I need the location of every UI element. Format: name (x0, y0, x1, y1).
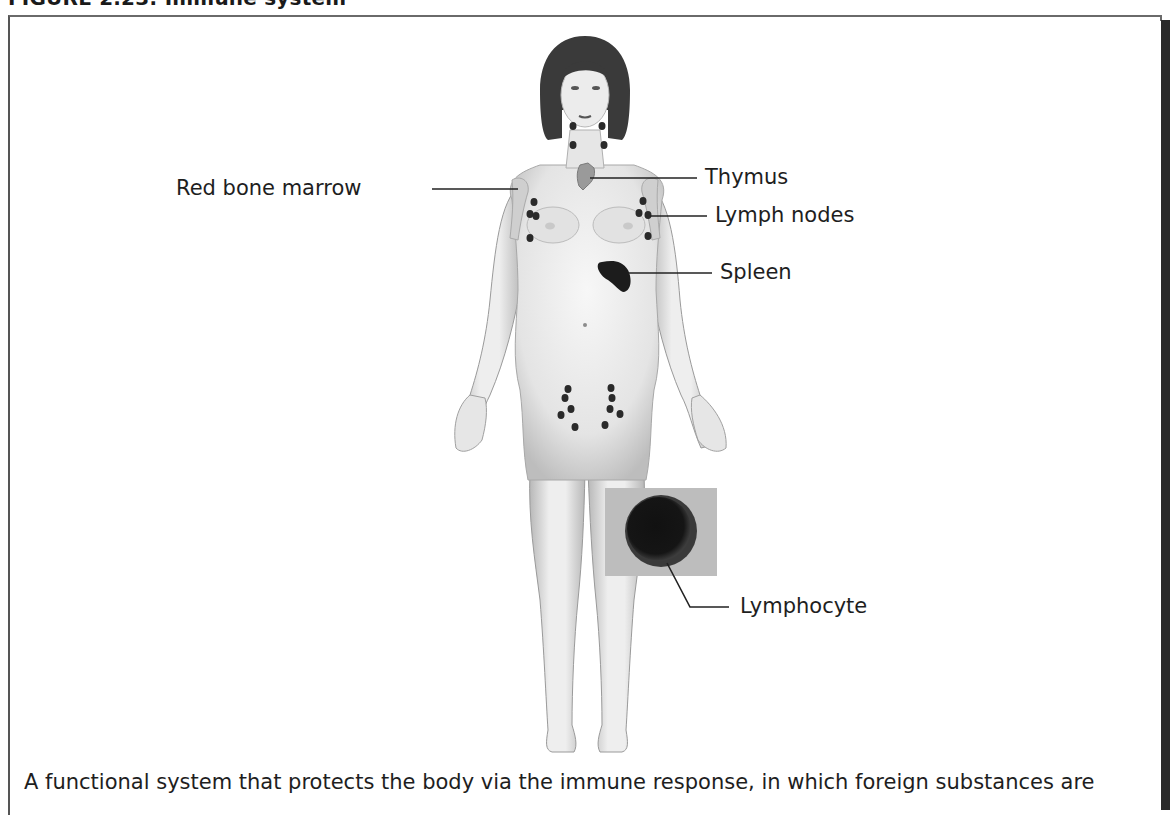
figure-caption: A functional system that protects the bo… (24, 770, 1095, 794)
neck (566, 130, 604, 168)
label-lymph-nodes: Lymph nodes (715, 205, 854, 226)
label-lymphocyte: Lymphocyte (740, 596, 867, 617)
label-thymus: Thymus (705, 167, 788, 188)
head (540, 36, 630, 140)
label-spleen: Spleen (720, 262, 792, 283)
label-red-bone-marrow: Red bone marrow (176, 178, 361, 199)
lymphocyte-inset (605, 488, 717, 576)
